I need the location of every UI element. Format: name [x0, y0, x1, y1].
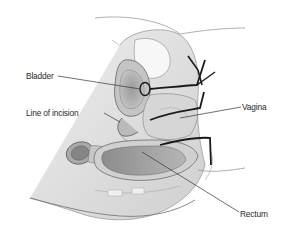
- label-vagina: Vagina: [242, 102, 266, 112]
- label-line-of-incision: Line of incision: [26, 108, 78, 118]
- label-bladder: Bladder: [26, 71, 54, 81]
- anatomy-illustration: [0, 0, 286, 241]
- label-rectum: Rectum: [240, 209, 268, 219]
